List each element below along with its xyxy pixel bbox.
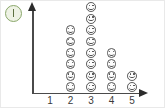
pictograph-figure: 12345 [0, 0, 165, 108]
pictograph-column [122, 70, 142, 93]
smiley-face-icon [127, 70, 138, 81]
smiley-face-icon [106, 70, 117, 81]
smiley-face-icon [65, 82, 76, 93]
x-axis-tick-label: 4 [102, 95, 122, 107]
smiley-face-icon [106, 82, 117, 93]
smiley-face-icon [65, 25, 76, 36]
pictograph-column [102, 47, 122, 93]
info-circle-icon[interactable] [5, 5, 22, 22]
smiley-face-icon [86, 2, 97, 13]
x-axis-tick-label: 2 [61, 95, 81, 107]
smiley-face-icon [106, 59, 117, 70]
smiley-face-icon [86, 47, 97, 58]
smiley-face-icon [86, 36, 97, 47]
smiley-face-icon [65, 59, 76, 70]
smiley-face-icon [65, 70, 76, 81]
x-axis-tick-label: 1 [40, 95, 60, 107]
smiley-face-icon [127, 82, 138, 93]
smiley-face-icon [86, 13, 97, 24]
pictograph-column [81, 2, 101, 93]
smiley-face-icon [65, 47, 76, 58]
smiley-face-icon [106, 47, 117, 58]
x-axis-tick-label: 3 [81, 95, 101, 107]
smiley-face-icon [86, 59, 97, 70]
smiley-face-icon [86, 70, 97, 81]
smiley-face-icon [65, 36, 76, 47]
plot-area [32, 1, 140, 93]
smiley-face-icon [86, 82, 97, 93]
smiley-face-icon [86, 25, 97, 36]
info-badge-letter [13, 9, 15, 17]
x-axis-tick-label: 5 [122, 95, 142, 107]
pictograph-column [61, 25, 81, 93]
